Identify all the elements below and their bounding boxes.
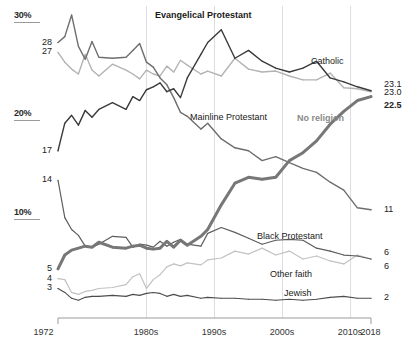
end-label-catholic: 23.0 [384,87,402,97]
y-axis-tick-20-rule [14,120,40,121]
start-label-catholic: 27 [22,46,52,56]
religious-affiliation-line-chart: 30% 20% 10% 28 27 17 14 5 4 3 23.1 23.0 … [0,0,419,346]
end-label-jewish: 2 [384,292,389,302]
x-axis-tick-1972: 1972 [34,327,54,337]
series-label-catholic: Catholic [311,56,344,66]
y-axis-tick-10: 10% [14,207,40,220]
end-label-black-protestant: 6 [384,247,389,257]
start-label-evangelical: 17 [22,145,52,155]
x-axis-tick-2010s: 2010s [338,327,363,337]
x-axis-tick-1990s: 1990s [202,327,227,337]
start-label-jewish: 3 [22,282,52,292]
start-label-black-protestant: 14 [22,174,52,184]
chart-plot-area [0,0,419,346]
end-label-no-religion: 22.5 [384,100,402,110]
end-label-other-faith: 6 [384,261,389,271]
series-label-other-faith: Other faith [270,269,312,279]
y-axis-tick-30: 30% [14,10,40,23]
y-axis-tick-30-label: 30% [14,10,31,20]
series-label-evangelical-protestant: Evangelical Protestant [155,10,252,20]
y-axis-tick-20-label: 20% [14,108,31,118]
series-label-no-religion: No religion [297,113,344,123]
x-axis-tick-2018: 2018 [361,327,381,337]
y-axis-tick-10-label: 10% [14,207,31,217]
series-label-jewish: Jewish [284,288,312,298]
y-axis-tick-30-rule [14,22,40,23]
y-axis-tick-10-rule [14,219,40,220]
x-axis-tick-1980s: 1980s [134,327,159,337]
start-label-no-religion: 5 [22,263,52,273]
series-label-mainline-protestant: Mainline Protestant [190,112,267,122]
y-axis-tick-20: 20% [14,108,40,121]
start-label-mainline: 28 [22,37,52,47]
start-label-other-faith: 4 [22,273,52,283]
end-label-mainline: 11 [384,204,393,214]
series-label-black-protestant: Black Protestant [257,231,323,241]
x-axis-tick-2000s: 2000s [270,327,295,337]
